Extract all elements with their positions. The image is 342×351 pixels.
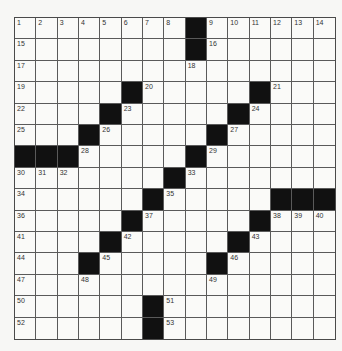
grid-cell[interactable] — [100, 146, 121, 167]
grid-cell[interactable] — [314, 125, 335, 146]
grid-cell[interactable] — [250, 168, 271, 189]
grid-cell[interactable] — [164, 232, 185, 253]
grid-cell[interactable]: 28 — [79, 146, 100, 167]
grid-cell[interactable]: 27 — [228, 125, 249, 146]
grid-cell[interactable] — [58, 189, 79, 210]
grid-cell[interactable] — [79, 82, 100, 103]
grid-cell[interactable]: 32 — [58, 168, 79, 189]
grid-cell[interactable]: 12 — [271, 18, 292, 39]
grid-cell[interactable] — [207, 211, 228, 232]
grid-cell[interactable] — [122, 125, 143, 146]
grid-cell[interactable] — [36, 104, 57, 125]
grid-cell[interactable] — [271, 253, 292, 274]
grid-cell[interactable] — [250, 318, 271, 339]
grid-cell[interactable]: 24 — [250, 104, 271, 125]
grid-cell[interactable] — [271, 39, 292, 60]
grid-cell[interactable] — [292, 253, 313, 274]
grid-cell[interactable] — [314, 104, 335, 125]
grid-cell[interactable] — [271, 318, 292, 339]
grid-cell[interactable] — [228, 168, 249, 189]
grid-cell[interactable] — [186, 104, 207, 125]
grid-cell[interactable]: 53 — [164, 318, 185, 339]
grid-cell[interactable]: 22 — [15, 104, 36, 125]
grid-cell[interactable] — [164, 82, 185, 103]
grid-cell[interactable] — [228, 82, 249, 103]
grid-cell[interactable]: 46 — [228, 253, 249, 274]
grid-cell[interactable] — [207, 168, 228, 189]
grid-cell[interactable]: 47 — [15, 275, 36, 296]
grid-cell[interactable] — [58, 39, 79, 60]
grid-cell[interactable] — [292, 61, 313, 82]
grid-cell[interactable] — [207, 61, 228, 82]
grid-cell[interactable]: 17 — [15, 61, 36, 82]
grid-cell[interactable] — [100, 318, 121, 339]
grid-cell[interactable]: 29 — [207, 146, 228, 167]
grid-cell[interactable] — [122, 189, 143, 210]
grid-cell[interactable] — [122, 146, 143, 167]
grid-cell[interactable]: 2 — [36, 18, 57, 39]
grid-cell[interactable] — [271, 104, 292, 125]
grid-cell[interactable] — [100, 61, 121, 82]
grid-cell[interactable] — [100, 275, 121, 296]
grid-cell[interactable]: 45 — [100, 253, 121, 274]
grid-cell[interactable] — [143, 168, 164, 189]
grid-cell[interactable]: 9 — [207, 18, 228, 39]
grid-cell[interactable] — [164, 104, 185, 125]
grid-cell[interactable] — [143, 125, 164, 146]
grid-cell[interactable] — [271, 296, 292, 317]
grid-cell[interactable] — [143, 253, 164, 274]
grid-cell[interactable] — [36, 253, 57, 274]
grid-cell[interactable] — [250, 253, 271, 274]
grid-cell[interactable] — [36, 189, 57, 210]
grid-cell[interactable] — [100, 189, 121, 210]
grid-cell[interactable] — [36, 61, 57, 82]
grid-cell[interactable] — [186, 253, 207, 274]
grid-cell[interactable]: 19 — [15, 82, 36, 103]
grid-cell[interactable]: 14 — [314, 18, 335, 39]
grid-cell[interactable] — [122, 318, 143, 339]
grid-cell[interactable]: 11 — [250, 18, 271, 39]
grid-cell[interactable]: 35 — [164, 189, 185, 210]
grid-cell[interactable] — [143, 104, 164, 125]
grid-cell[interactable]: 7 — [143, 18, 164, 39]
grid-cell[interactable] — [271, 61, 292, 82]
grid-cell[interactable] — [250, 61, 271, 82]
grid-cell[interactable] — [36, 232, 57, 253]
grid-cell[interactable] — [36, 275, 57, 296]
grid-cell[interactable]: 49 — [207, 275, 228, 296]
grid-cell[interactable] — [143, 232, 164, 253]
grid-cell[interactable] — [207, 318, 228, 339]
grid-cell[interactable] — [314, 296, 335, 317]
grid-cell[interactable]: 36 — [15, 211, 36, 232]
grid-cell[interactable] — [292, 125, 313, 146]
grid-cell[interactable]: 21 — [271, 82, 292, 103]
grid-cell[interactable] — [122, 39, 143, 60]
grid-cell[interactable]: 16 — [207, 39, 228, 60]
grid-cell[interactable]: 31 — [36, 168, 57, 189]
grid-cell[interactable] — [122, 168, 143, 189]
grid-cell[interactable]: 50 — [15, 296, 36, 317]
grid-cell[interactable] — [143, 146, 164, 167]
grid-cell[interactable] — [122, 253, 143, 274]
grid-cell[interactable] — [186, 125, 207, 146]
grid-cell[interactable]: 4 — [79, 18, 100, 39]
grid-cell[interactable] — [58, 253, 79, 274]
grid-cell[interactable] — [250, 296, 271, 317]
grid-cell[interactable] — [228, 39, 249, 60]
grid-cell[interactable] — [100, 39, 121, 60]
grid-cell[interactable]: 18 — [186, 61, 207, 82]
grid-cell[interactable] — [122, 296, 143, 317]
grid-cell[interactable] — [186, 296, 207, 317]
grid-cell[interactable] — [79, 39, 100, 60]
grid-cell[interactable] — [250, 275, 271, 296]
grid-cell[interactable] — [271, 232, 292, 253]
grid-cell[interactable]: 41 — [15, 232, 36, 253]
grid-cell[interactable] — [186, 318, 207, 339]
grid-cell[interactable]: 23 — [122, 104, 143, 125]
grid-cell[interactable] — [250, 125, 271, 146]
grid-cell[interactable] — [292, 39, 313, 60]
grid-cell[interactable] — [292, 146, 313, 167]
grid-cell[interactable] — [58, 125, 79, 146]
grid-cell[interactable]: 42 — [122, 232, 143, 253]
grid-cell[interactable] — [36, 211, 57, 232]
